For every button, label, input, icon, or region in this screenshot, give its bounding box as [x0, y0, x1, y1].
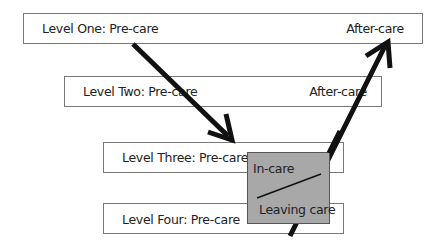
up-arrow-head: [366, 42, 390, 68]
overlay-layer: [0, 0, 443, 249]
up-arrow-top-segment: [329, 131, 340, 153]
in-care-divider: [257, 174, 321, 198]
